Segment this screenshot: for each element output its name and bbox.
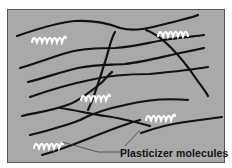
polymer-chains: [17, 15, 222, 155]
plasticizer-molecule: [34, 143, 63, 148]
polymer-chain: [141, 117, 222, 133]
pointer-line: [62, 142, 122, 152]
polymer-chain: [30, 67, 208, 97]
plasticizer-label: Plasticizer molecules: [120, 147, 228, 159]
plasticizer-molecule: [158, 32, 188, 36]
plasticizer-molecule: [32, 37, 66, 42]
plasticizer-molecule: [146, 115, 175, 120]
polymer-chain: [146, 30, 208, 96]
polymer-diagram: [0, 0, 232, 168]
pointer-line: [125, 130, 140, 146]
